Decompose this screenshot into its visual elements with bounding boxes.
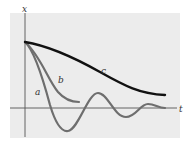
plot-panel [10, 13, 180, 138]
curve-a-label: a [35, 87, 40, 97]
curve-b-label: b [58, 75, 64, 85]
x-axis-label: t [179, 104, 183, 114]
damped-oscillation-diagram: x t a b c [0, 0, 189, 143]
y-axis-label: x [22, 4, 27, 14]
curve-c-label: c [101, 66, 106, 76]
